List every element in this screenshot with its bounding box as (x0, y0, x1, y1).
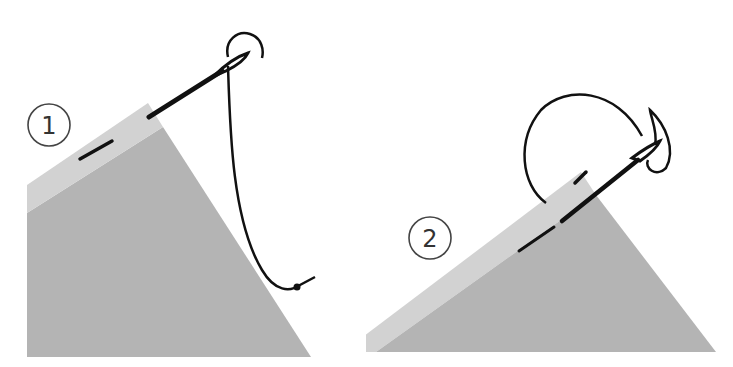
step-1-panel: 1 (0, 0, 366, 367)
needle-shaft (149, 71, 222, 117)
step-1-label: 1 (28, 104, 70, 146)
step-2-number: 2 (422, 225, 437, 253)
step-1-number: 1 (41, 112, 56, 140)
step-2-panel: 2 (366, 0, 733, 367)
needle-eye (214, 53, 248, 76)
thread-knot (294, 284, 301, 291)
step-2-label: 2 (409, 217, 451, 259)
step-1-illustration: 1 (0, 0, 366, 367)
step-2-illustration: 2 (366, 0, 733, 367)
